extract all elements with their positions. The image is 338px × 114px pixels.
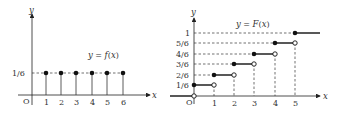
origin-label: O [186, 98, 193, 107]
svg-text:5/6: 5/6 [176, 39, 189, 48]
x-axis-label: x [323, 91, 328, 101]
y-tick-labels: 1/6 2/6 3/6 4/6 5/6 1 [176, 29, 190, 90]
svg-text:5: 5 [105, 98, 110, 107]
svg-text:1/6: 1/6 [176, 81, 189, 90]
y-axis-label: y [28, 5, 34, 15]
svg-text:4: 4 [90, 98, 95, 107]
chart-title: y = F(x) [235, 19, 270, 29]
cdf-chart: y x O y = F(x) 1/6 2/6 3/6 4/6 5/6 1 [170, 7, 328, 108]
svg-text:1: 1 [44, 98, 49, 107]
svg-text:4/6: 4/6 [176, 50, 189, 59]
x-tick-labels: 1 2 3 4 5 6 [44, 98, 126, 107]
svg-text:4: 4 [273, 99, 278, 108]
svg-text:1: 1 [212, 99, 217, 108]
x-tick-labels: 1 2 3 4 5 [212, 99, 298, 108]
svg-text:3: 3 [74, 98, 79, 107]
closed-points [192, 31, 298, 88]
svg-text:3/6: 3/6 [176, 60, 189, 69]
figure: y x O y = f(x) 1/6 1 2 [0, 0, 338, 114]
svg-text:5: 5 [293, 99, 298, 108]
x-axis-label: x [152, 90, 157, 100]
origin-label: O [23, 97, 30, 106]
chart-title: y = f(x) [87, 50, 119, 60]
svg-text:3: 3 [252, 99, 257, 108]
svg-text:2: 2 [59, 98, 64, 107]
stems [46, 73, 123, 95]
svg-text:1: 1 [185, 29, 190, 38]
svg-text:2/6: 2/6 [176, 71, 189, 80]
pmf-chart: y x O y = f(x) 1/6 1 2 [12, 5, 157, 107]
svg-text:2: 2 [232, 99, 237, 108]
y-tick-label: 1/6 [12, 69, 25, 78]
open-points [192, 41, 297, 98]
svg-text:6: 6 [121, 98, 126, 107]
y-axis-label: y [190, 7, 196, 17]
